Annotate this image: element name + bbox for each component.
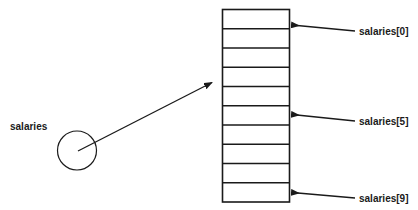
callout-arrow-salaries-5 (292, 115, 355, 122)
callout-label-salaries-9: salaries[9] (359, 194, 408, 204)
callout-label-salaries-5: salaries[5] (359, 117, 408, 127)
callout-arrow-salaries-9 (292, 193, 355, 199)
callout-arrow-salaries-0 (292, 25, 355, 31)
pointer-variable-label: salaries (10, 122, 47, 132)
diagram-canvas: salaries salaries[0] salaries[5] salarie… (0, 0, 418, 210)
diagram-graphics (0, 0, 418, 210)
callout-label-salaries-0: salaries[0] (359, 27, 408, 37)
pointer-arrow (78, 83, 212, 152)
pointer-circle-icon (58, 131, 97, 170)
